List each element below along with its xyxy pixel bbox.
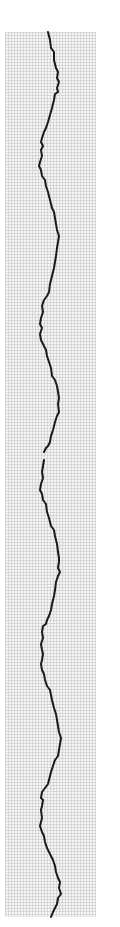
grid-paper	[5, 32, 96, 917]
strip-chart	[0, 0, 120, 927]
